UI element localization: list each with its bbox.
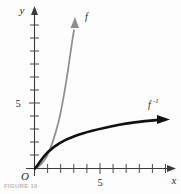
curve-label-f-inverse-text: f [148,99,152,110]
origin-label: O [21,170,29,182]
curve-label-f-inverse: f -1 [148,97,158,110]
y-axis-label: y [19,4,25,16]
inverse-function-graph: 5 y 5 x O [0,0,181,194]
y-axis-arrow-icon [31,6,38,15]
curve-f-inverse-arrow-icon [157,115,170,124]
x-axis-label: x [171,174,177,186]
y-axis-group: 5 y [15,4,40,176]
curve-label-f: f [85,11,89,22]
curve-label-f-inverse-superscript: -1 [153,97,158,104]
curve-f-arrow-icon [71,17,80,28]
curve-label-f-text: f [85,11,89,22]
x-axis-group: 5 x O [21,163,177,188]
curve-f-inverse-path [35,120,158,169]
series-f-inverse [35,115,170,169]
y-tick-label-5: 5 [15,98,20,109]
figure-caption: FIGURE 10 [4,183,38,189]
x-axis-arrow-icon [167,165,176,172]
figure-container: 5 y 5 x O [0,0,181,194]
x-tick-label-5: 5 [97,177,102,188]
